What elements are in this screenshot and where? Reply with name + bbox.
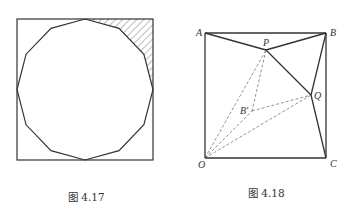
segment-PQ	[266, 50, 311, 95]
label-A: A	[195, 27, 203, 38]
segment-QC	[311, 95, 326, 158]
label-B: B	[330, 27, 336, 38]
dashed-segment-PBp	[252, 50, 266, 111]
label-B-prime: B'	[240, 105, 249, 116]
dashed-segment-BpQ	[252, 95, 311, 111]
label-Q: Q	[314, 90, 322, 101]
figures-canvas: 图 4.17 A B C O P Q B' 图 4.18	[0, 0, 355, 217]
hatched-region	[85, 19, 153, 90]
dashed-lines	[205, 50, 311, 158]
label-C: C	[330, 158, 337, 169]
figure-4-18: A B C O P Q B' 图 4.18	[195, 27, 337, 199]
caption-fig-4-18: 图 4.18	[248, 187, 285, 199]
label-P: P	[262, 37, 269, 48]
caption-fig-4-17: 图 4.17	[68, 191, 105, 203]
label-O: O	[198, 159, 205, 170]
segment-BQ	[311, 33, 326, 95]
figure-4-17: 图 4.17	[17, 19, 153, 203]
segment-AP	[205, 33, 266, 50]
segment-PB	[266, 33, 326, 50]
dashed-segment-OQ	[205, 95, 311, 158]
dashed-segment-OP	[205, 50, 266, 158]
